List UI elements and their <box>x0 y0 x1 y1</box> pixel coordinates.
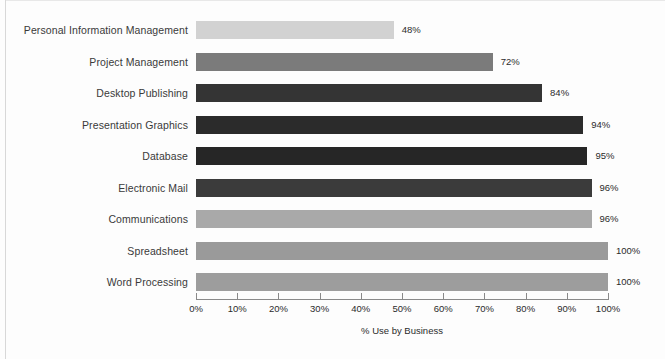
bar <box>196 242 608 260</box>
bar <box>196 147 587 165</box>
bar-value-label: 96% <box>600 210 619 228</box>
x-axis-tick-label: 50% <box>382 303 422 314</box>
bar <box>196 210 592 228</box>
bar-value-label: 94% <box>591 116 610 134</box>
x-axis-tick <box>196 293 197 300</box>
x-axis-tick <box>567 293 568 300</box>
category-label: Spreadsheet <box>0 242 188 260</box>
category-label: Word Processing <box>0 273 188 291</box>
bar-value-label: 100% <box>616 273 640 291</box>
x-axis-tick <box>484 293 485 300</box>
x-axis-tick <box>402 293 403 300</box>
bar-row: Desktop Publishing84% <box>0 84 665 102</box>
x-axis-tick <box>443 293 444 300</box>
bar <box>196 84 542 102</box>
category-label: Desktop Publishing <box>0 84 188 102</box>
bar-row: Spreadsheet100% <box>0 242 665 260</box>
x-axis-tick <box>526 293 527 300</box>
bar-value-label: 84% <box>550 84 569 102</box>
bar-row: Project Management72% <box>0 53 665 71</box>
bar-value-label: 72% <box>501 53 520 71</box>
x-axis-tick-label: 80% <box>506 303 546 314</box>
x-axis-tick <box>608 293 609 300</box>
x-axis-tick <box>278 293 279 300</box>
x-axis-tick-label: 40% <box>341 303 381 314</box>
bar <box>196 273 608 291</box>
category-label: Personal Information Management <box>0 21 188 39</box>
bar-value-label: 95% <box>595 147 614 165</box>
x-axis-tick-label: 30% <box>300 303 340 314</box>
bar-value-label: 96% <box>600 179 619 197</box>
x-axis-tick <box>361 293 362 300</box>
x-axis-tick-label: 70% <box>464 303 504 314</box>
x-axis-tick <box>237 293 238 300</box>
bar-chart: Personal Information Management48%Projec… <box>0 0 665 359</box>
bar-row: Database95% <box>0 147 665 165</box>
bar <box>196 179 592 197</box>
bar-row: Communications96% <box>0 210 665 228</box>
x-axis-tick-label: 20% <box>258 303 298 314</box>
bar-row: Presentation Graphics94% <box>0 116 665 134</box>
x-axis-tick-label: 10% <box>217 303 257 314</box>
x-axis-title: % Use by Business <box>196 325 608 336</box>
category-label: Communications <box>0 210 188 228</box>
category-label: Database <box>0 147 188 165</box>
category-label: Presentation Graphics <box>0 116 188 134</box>
bar <box>196 53 493 71</box>
bar-value-label: 100% <box>616 242 640 260</box>
category-label: Electronic Mail <box>0 179 188 197</box>
bar <box>196 21 394 39</box>
x-axis-tick-label: 60% <box>423 303 463 314</box>
x-axis-tick-label: 0% <box>176 303 216 314</box>
bar-row: Personal Information Management48% <box>0 21 665 39</box>
x-axis-tick <box>320 293 321 300</box>
category-label: Project Management <box>0 53 188 71</box>
bar-row: Word Processing100% <box>0 273 665 291</box>
bar <box>196 116 583 134</box>
x-axis-tick-label: 100% <box>588 303 628 314</box>
bar-row: Electronic Mail96% <box>0 179 665 197</box>
bar-value-label: 48% <box>402 21 421 39</box>
x-axis-tick-label: 90% <box>547 303 587 314</box>
